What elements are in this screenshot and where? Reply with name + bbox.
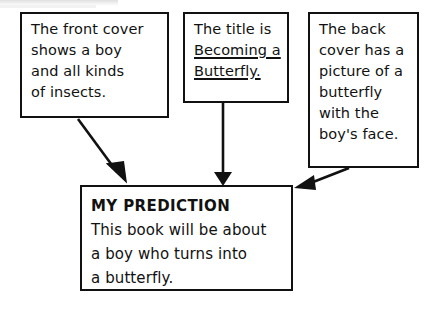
prediction-line-2: a boy who turns into xyxy=(91,242,284,266)
prediction-box: MY PREDICTION This book will be about a … xyxy=(80,185,293,291)
back-cover-note: The back cover has a picture of a butter… xyxy=(308,12,419,168)
back-cover-line-4: butterfly xyxy=(319,82,410,103)
prediction-heading: MY PREDICTION xyxy=(91,194,284,218)
back-cover-line-1: The back xyxy=(319,19,410,40)
arrow-back-cover-to-prediction xyxy=(294,168,349,190)
title-note: The title is Becoming a Butterfly. xyxy=(183,12,289,103)
prediction-line-1: This book will be about xyxy=(91,218,284,242)
back-cover-line-3: picture of a xyxy=(319,61,410,82)
arrow-front-cover-to-prediction xyxy=(78,119,127,184)
graphic-organizer-canvas: The front cover shows a boy and all kind… xyxy=(0,0,437,309)
front-cover-line-2: shows a boy xyxy=(31,40,160,61)
title-note-line-1: The title is xyxy=(194,19,280,40)
back-cover-line-6: boy's face. xyxy=(319,124,410,145)
front-cover-line-1: The front cover xyxy=(31,19,160,40)
back-cover-line-2: cover has a xyxy=(319,40,410,61)
front-cover-note: The front cover shows a boy and all kind… xyxy=(20,12,169,118)
front-cover-line-3: and all kinds xyxy=(31,61,160,82)
book-title-line-2: Butterfly. xyxy=(194,61,280,82)
front-cover-line-4: of insects. xyxy=(31,82,160,103)
back-cover-line-5: with the xyxy=(319,103,410,124)
scan-artifact-secondary xyxy=(0,5,96,8)
arrow-title-to-prediction xyxy=(214,103,232,186)
book-title-line-1: Becoming a xyxy=(194,40,280,61)
prediction-line-3: a butterfly. xyxy=(91,266,284,290)
